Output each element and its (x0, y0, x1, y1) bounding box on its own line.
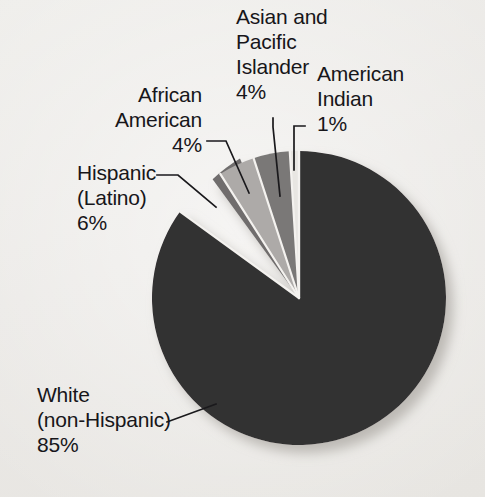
slice-label-hispanic-latino: Hispanic (Latino) 6% (77, 160, 217, 235)
slice-label-african-american: African American 4% (96, 82, 202, 157)
pie-chart-figure: Asian and Pacific Islander 4% American I… (0, 0, 485, 497)
slice-label-white-non-hispanic: White (non-Hispanic) 85% (37, 382, 237, 457)
slice-label-american-indian: American Indian 1% (317, 61, 437, 136)
